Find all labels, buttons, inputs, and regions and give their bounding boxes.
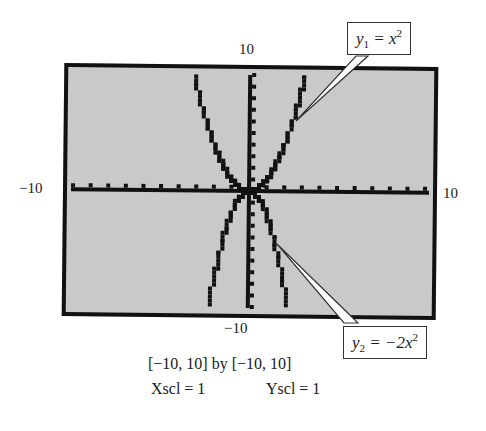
x-min-label: −10 xyxy=(19,181,42,196)
callout-y1-exp: 2 xyxy=(397,27,403,39)
x-max-label: 10 xyxy=(443,186,458,201)
callout-y2-var: y xyxy=(352,333,360,352)
callout-y2-rhs: = −2x xyxy=(365,333,413,352)
calculator-screen xyxy=(62,63,439,320)
window-caption: [−10, 10] by [−10, 10] xyxy=(148,355,291,373)
graph-plot xyxy=(66,67,435,316)
callout-y1-rhs: = x xyxy=(369,29,397,48)
yscl-caption: Yscl = 1 xyxy=(266,380,320,398)
callout-y2: y2 = −2x2 xyxy=(343,326,427,359)
xscl-caption: Xscl = 1 xyxy=(151,380,205,398)
callout-y1-var: y xyxy=(356,29,364,48)
y-max-label: 10 xyxy=(239,42,254,57)
y-min-label: −10 xyxy=(224,321,247,336)
callout-y1: y1 = x2 xyxy=(347,22,411,55)
callout-y2-exp: 2 xyxy=(413,331,419,343)
